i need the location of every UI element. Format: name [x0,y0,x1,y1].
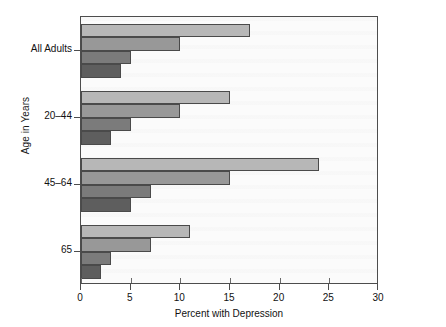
bar [81,91,230,105]
bar [81,252,111,266]
bar [81,131,111,145]
y-axis-tick-label: 65 [61,244,72,255]
bar [81,64,121,78]
x-axis-title: Percent with Depression [80,308,378,319]
bar [81,225,190,239]
y-axis-tick-label: 45–64 [44,177,72,188]
x-axis-inner-tick [131,278,132,283]
x-axis-tick-label: 5 [115,292,145,303]
x-axis-tick-label: 15 [214,292,244,303]
x-axis-inner-tick [280,278,281,283]
bar [81,51,131,65]
x-axis-tick-label: 0 [65,292,95,303]
bar [81,185,151,199]
bar [81,265,101,279]
y-axis-tick-label: 20–44 [44,110,72,121]
x-axis-tick-mark [179,284,180,290]
bar [81,37,180,51]
bar [81,238,151,252]
bar [81,198,131,212]
bar [81,158,319,172]
x-axis-tick-mark [279,284,280,290]
x-axis-tick-mark [229,284,230,290]
bar-chart-figure: Age in Years Poverty Level Below 100%100… [0,0,446,327]
y-axis-title: Age in Years [20,66,31,186]
x-axis-inner-tick [180,278,181,283]
bar [81,118,131,132]
plot-area: Poverty Level Below 100%100%–199%200%–39… [80,16,378,284]
x-axis-tick-mark [377,284,378,290]
bar [81,104,180,118]
bar [81,171,230,185]
x-axis-inner-tick [81,278,82,283]
x-axis-tick-label: 25 [313,292,343,303]
y-axis-tick-mark [74,251,80,252]
x-axis-tick-label: 30 [363,292,393,303]
y-axis-tick-mark [74,117,80,118]
x-axis-inner-tick [329,278,330,283]
bars-layer [81,17,377,283]
y-axis-tick-label: All Adults [31,43,72,54]
x-axis-tick-mark [80,284,81,290]
bar [81,24,250,38]
y-axis-tick-mark [74,50,80,51]
x-axis-tick-label: 20 [264,292,294,303]
y-axis-tick-mark [74,184,80,185]
x-axis-tick-mark [328,284,329,290]
x-axis-tick-label: 10 [164,292,194,303]
x-axis-tick-mark [130,284,131,290]
x-axis-inner-tick [230,278,231,283]
